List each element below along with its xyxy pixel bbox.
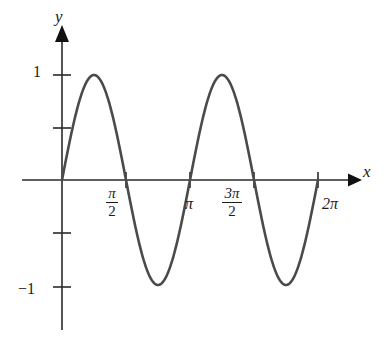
arrow-up-icon [55, 25, 69, 42]
pi-symbol: π [185, 196, 193, 212]
x-tick-label-pi-over-2: π 2 [98, 186, 126, 219]
y-axis-label: y [55, 8, 63, 25]
fraction-numerator: 3π [222, 186, 241, 203]
fraction-pi-over-2: π 2 [106, 186, 118, 219]
x-tick-label-3pi-over-2: 3π 2 [211, 186, 253, 219]
fraction-denominator: 2 [222, 203, 241, 219]
x-tick-label-pi: π [178, 196, 200, 212]
fraction-numerator: π [106, 186, 118, 203]
fraction-3pi-over-2: 3π 2 [222, 186, 241, 219]
y-tick-label-1: 1 [33, 64, 41, 80]
arrow-right-icon [348, 174, 362, 187]
y-tick-label-neg-1: −1 [18, 281, 35, 297]
x-tick-label-2pi: 2π [312, 196, 348, 212]
plot-canvas [0, 0, 392, 338]
x-axis-label: x [363, 163, 371, 180]
sine-graph-figure: y x 1 −1 π 2 π 3π 2 2π [0, 0, 392, 338]
fraction-denominator: 2 [106, 203, 118, 219]
two-pi-symbol: 2π [322, 196, 338, 212]
